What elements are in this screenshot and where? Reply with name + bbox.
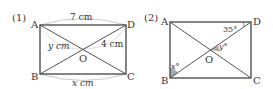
center-o-1: O xyxy=(79,53,87,64)
vertex-c-1: C xyxy=(127,71,135,82)
top-length-label: 7 cm xyxy=(70,12,93,22)
vertex-a-1: A xyxy=(30,19,39,30)
angle-y-label: y° xyxy=(218,42,228,51)
vertex-b-2: B xyxy=(161,75,168,86)
vertex-a-2: A xyxy=(160,16,169,27)
vertex-d-1: D xyxy=(127,19,135,30)
vertex-d-2: D xyxy=(253,16,261,27)
diagonal-y-label: y cm xyxy=(47,41,70,51)
rectangle-diagrams: (1) A D B C O 7 cm y cm 4 cm x cm (2) A … xyxy=(0,0,273,89)
vertex-c-2: C xyxy=(253,75,261,86)
center-o-2: O xyxy=(205,54,213,65)
angle-d-arc xyxy=(243,22,244,27)
angle-35-label: 35° xyxy=(223,25,237,34)
figure-2 xyxy=(170,22,251,78)
figure-1-number: (1) xyxy=(12,12,26,23)
vertex-b-1: B xyxy=(31,71,38,82)
bottom-length-label: x cm xyxy=(72,78,94,88)
figure-2-number: (2) xyxy=(144,12,158,23)
diagonal-4-label: 4 cm xyxy=(101,39,124,49)
angle-x-label: x° xyxy=(171,62,180,71)
